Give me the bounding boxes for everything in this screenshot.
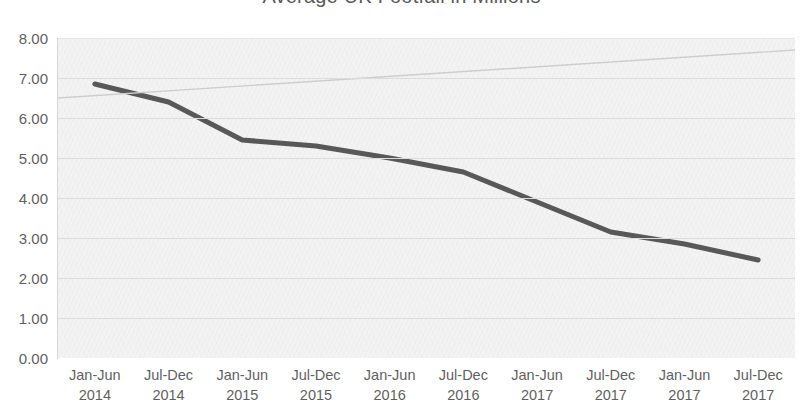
gridline [58, 158, 795, 159]
x-tick-period: Jul-Dec [291, 367, 340, 383]
gridline [58, 318, 795, 319]
x-tick-period: Jan-Jun [364, 367, 416, 383]
gridline [58, 278, 795, 279]
x-axis-tick-label: Jan-Jun2015 [205, 362, 279, 410]
gridline [58, 238, 795, 239]
gridline [58, 118, 795, 119]
plot-area [58, 38, 795, 358]
x-tick-year: 2014 [132, 385, 206, 405]
x-tick-period: Jan-Jun [511, 367, 563, 383]
x-tick-year: 2014 [58, 385, 132, 405]
gridline [58, 38, 795, 39]
x-tick-year: 2017 [648, 385, 722, 405]
x-tick-period: Jul-Dec [439, 367, 488, 383]
x-tick-period: Jul-Dec [144, 367, 193, 383]
y-axis-tick-label: 4.00 [0, 190, 48, 207]
y-axis-tick-label: 6.00 [0, 110, 48, 127]
x-axis-tick-label: Jul-Dec2017 [721, 362, 795, 410]
x-axis-labels: Jan-Jun2014Jul-Dec2014Jan-Jun2015Jul-Dec… [58, 362, 795, 410]
y-axis-tick-label: 3.00 [0, 230, 48, 247]
x-tick-year: 2015 [279, 385, 353, 405]
y-axis-tick-label: 1.00 [0, 310, 48, 327]
x-tick-period: Jul-Dec [734, 367, 783, 383]
x-tick-year: 2017 [500, 385, 574, 405]
x-axis-tick-label: Jul-Dec2017 [574, 362, 648, 410]
y-axis-tick-label: 5.00 [0, 150, 48, 167]
y-axis-tick-label: 7.00 [0, 70, 48, 87]
x-tick-year: 2017 [721, 385, 795, 405]
x-axis-tick-label: Jul-Dec2015 [279, 362, 353, 410]
x-tick-year: 2016 [353, 385, 427, 405]
y-axis-tick-label: 0.00 [0, 350, 48, 367]
x-axis-tick-label: Jan-Jun2017 [648, 362, 722, 410]
y-axis-tick-label: 2.00 [0, 270, 48, 287]
trendline [58, 50, 795, 98]
chart-title: Average UK Footfall in Millions [0, 0, 803, 8]
x-tick-year: 2016 [427, 385, 501, 405]
x-tick-period: Jan-Jun [216, 367, 268, 383]
x-axis-tick-label: Jul-Dec2014 [132, 362, 206, 410]
data-line [95, 84, 758, 260]
x-tick-year: 2017 [574, 385, 648, 405]
x-tick-year: 2015 [205, 385, 279, 405]
x-axis-tick-label: Jul-Dec2016 [427, 362, 501, 410]
x-tick-period: Jan-Jun [659, 367, 711, 383]
x-tick-period: Jul-Dec [586, 367, 635, 383]
x-tick-period: Jan-Jun [69, 367, 121, 383]
gridline [58, 78, 795, 79]
x-axis-tick-label: Jan-Jun2017 [500, 362, 574, 410]
y-axis-tick-label: 8.00 [0, 30, 48, 47]
x-axis-tick-label: Jan-Jun2016 [353, 362, 427, 410]
x-axis-tick-label: Jan-Jun2014 [58, 362, 132, 410]
chart-container: Average UK Footfall in Millions 8.007.00… [0, 0, 803, 410]
gridline [58, 198, 795, 199]
